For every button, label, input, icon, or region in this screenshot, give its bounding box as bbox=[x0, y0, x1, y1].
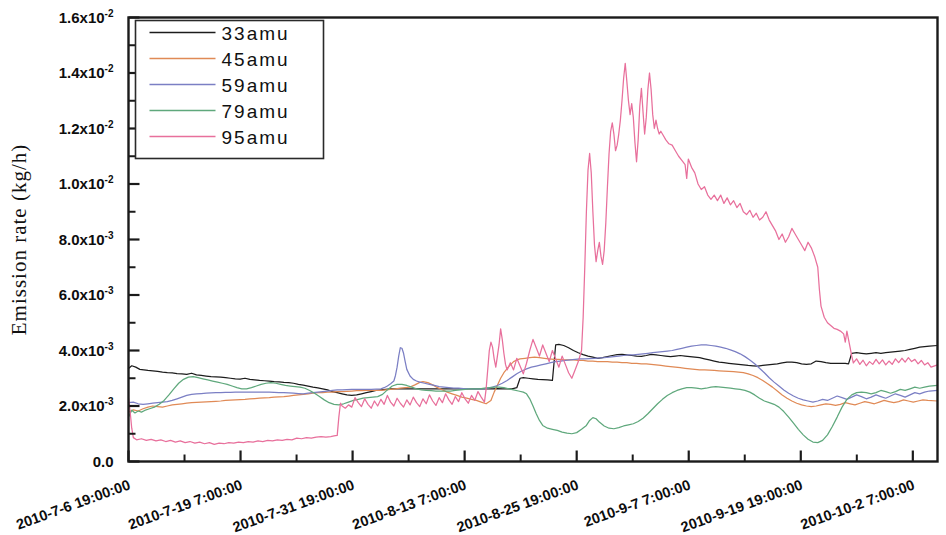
x-tick-label: 2010-8-13 7:00:00 bbox=[350, 476, 468, 532]
y-axis-tick-labels: 0.02.0x10-34.0x10-36.0x10-38.0x10-31.0x1… bbox=[59, 8, 114, 470]
y-tick-label: 4.0x10-3 bbox=[59, 341, 114, 359]
x-tick-label-group: 2010-8-25 19:00:00 bbox=[455, 476, 581, 535]
x-tick-label-group: 2010-7-19 7:00:00 bbox=[126, 476, 244, 532]
y-axis-title: Emission rate (kg/h) bbox=[7, 144, 31, 335]
x-tick-label-group: 2010-7-31 19:00:00 bbox=[230, 476, 356, 535]
x-tick-label-group: 2010-7-6 19:00:00 bbox=[14, 476, 132, 532]
legend-label-95amu: 95amu bbox=[222, 127, 290, 148]
x-tick-label: 2010-9-7 7:00:00 bbox=[582, 476, 693, 529]
y-tick-label: 1.2x10-2 bbox=[59, 119, 114, 137]
y-tick-label: 0.0 bbox=[93, 453, 114, 470]
x-tick-label: 2010-7-6 19:00:00 bbox=[14, 476, 132, 532]
x-axis-tick-labels: 2010-7-6 19:00:002010-7-19 7:00:002010-7… bbox=[14, 476, 917, 535]
series-line-79amu bbox=[129, 377, 938, 443]
emission-rate-chart-figure: 0.02.0x10-34.0x10-36.0x10-38.0x10-31.0x1… bbox=[0, 0, 946, 535]
y-axis-title-text: Emission rate (kg/h) bbox=[7, 144, 31, 335]
y-tick-label: 8.0x10-3 bbox=[59, 230, 114, 248]
chart-legend: 33amu45amu59amu79amu95amu bbox=[136, 21, 324, 159]
x-tick-label-group: 2010-9-19 19:00:00 bbox=[679, 476, 805, 535]
chart-canvas: 0.02.0x10-34.0x10-36.0x10-38.0x10-31.0x1… bbox=[0, 0, 946, 535]
series-line-59amu bbox=[129, 345, 938, 404]
legend-label-59amu: 59amu bbox=[222, 75, 290, 96]
x-tick-label-group: 2010-9-7 7:00:00 bbox=[582, 476, 693, 529]
x-tick-label: 2010-8-25 19:00:00 bbox=[455, 476, 581, 535]
series-line-45amu bbox=[129, 357, 938, 412]
y-tick-label: 6.0x10-3 bbox=[59, 285, 114, 303]
y-tick-label: 1.0x10-2 bbox=[59, 174, 114, 192]
legend-label-45amu: 45amu bbox=[222, 49, 290, 70]
y-tick-label: 2.0x10-3 bbox=[59, 396, 114, 414]
x-tick-label: 2010-9-19 19:00:00 bbox=[679, 476, 805, 535]
x-tick-label: 2010-10-2 7:00:00 bbox=[798, 476, 916, 532]
x-tick-label: 2010-7-31 19:00:00 bbox=[230, 476, 356, 535]
x-tick-label-group: 2010-8-13 7:00:00 bbox=[350, 476, 468, 532]
legend-label-79amu: 79amu bbox=[222, 101, 290, 122]
y-tick-label: 1.6x10-2 bbox=[59, 8, 114, 26]
y-axis-title-group: Emission rate (kg/h) bbox=[7, 144, 31, 335]
x-tick-label: 2010-7-19 7:00:00 bbox=[126, 476, 244, 532]
legend-label-33amu: 33amu bbox=[222, 23, 290, 44]
x-tick-label-group: 2010-10-2 7:00:00 bbox=[798, 476, 916, 532]
y-tick-label: 1.4x10-2 bbox=[59, 63, 114, 81]
